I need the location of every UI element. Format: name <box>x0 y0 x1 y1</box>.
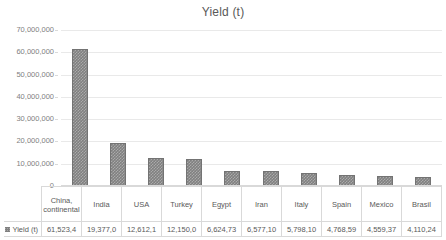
data-table-columns: China, continental61,523,4India19,377,0U… <box>41 186 442 236</box>
y-axis-tick-label: 20,000,000 <box>16 138 54 146</box>
chart-root: Yield (t) 70,000,00060,000,00050,000,000… <box>0 0 446 240</box>
category-label: China, continental <box>42 186 81 221</box>
bar[interactable] <box>72 49 88 186</box>
data-table-column: Spain4,768,59 <box>321 186 361 236</box>
category-label: Mexico <box>362 186 401 221</box>
data-table-column: Italy5,798,10 <box>281 186 321 236</box>
value-cell: 4,768,59 <box>322 221 361 236</box>
value-cell: 5,798,10 <box>282 221 321 236</box>
data-table-column: Mexico4,559,37 <box>361 186 401 236</box>
y-axis-tick-mark <box>55 30 58 31</box>
data-table-bottom-border <box>4 236 442 237</box>
bar-slot <box>175 30 213 186</box>
data-table-column: China, continental61,523,4 <box>41 186 81 236</box>
y-axis-tick-label: 50,000,000 <box>16 71 54 79</box>
legend-swatch-icon <box>5 227 10 232</box>
bar-slot <box>328 30 366 186</box>
data-table-column: Brasil4,110,24 <box>401 186 442 236</box>
y-axis-tick-mark <box>55 97 58 98</box>
bar-slot <box>213 30 251 186</box>
y-axis-tick-label: 40,000,000 <box>16 93 54 101</box>
y-axis-tick-mark <box>55 52 58 53</box>
data-table: Yield (t) China, continental61,523,4Indi… <box>4 186 442 236</box>
value-cell: 12,612,1 <box>122 221 161 236</box>
legend-entry[interactable]: Yield (t) <box>4 221 41 236</box>
bar-slot <box>61 30 99 186</box>
category-label: Brasil <box>402 186 441 221</box>
data-table-column: Egypt6,624,73 <box>201 186 241 236</box>
y-axis-tick-label: 10,000,000 <box>16 160 54 168</box>
value-cell: 4,559,37 <box>362 221 401 236</box>
bar-slot <box>137 30 175 186</box>
data-table-column: Turkey12,150,0 <box>161 186 201 236</box>
bar-slot <box>251 30 289 186</box>
y-axis-tick-mark <box>55 141 58 142</box>
y-axis-tick-mark <box>55 75 58 76</box>
category-label: India <box>82 186 121 221</box>
value-cell: 6,577,10 <box>242 221 281 236</box>
category-label: Italy <box>282 186 321 221</box>
bar[interactable] <box>186 159 202 186</box>
plot-area <box>61 30 442 186</box>
value-cell: 6,624,73 <box>202 221 241 236</box>
bar-slot <box>366 30 404 186</box>
category-label: Egypt <box>202 186 241 221</box>
category-label: USA <box>122 186 161 221</box>
bar-slot <box>404 30 442 186</box>
bar-series <box>61 30 442 186</box>
bar[interactable] <box>224 171 240 186</box>
data-table-column: USA12,612,1 <box>121 186 161 236</box>
bar-slot <box>290 30 328 186</box>
chart-title: Yield (t) <box>0 5 446 19</box>
y-axis-tick-mark <box>55 164 58 165</box>
y-axis-tick-label: 70,000,000 <box>16 26 54 34</box>
y-axis-tick-label: 30,000,000 <box>16 115 54 123</box>
y-axis: 70,000,00060,000,00050,000,00040,000,000… <box>0 30 58 186</box>
y-axis-tick-mark <box>55 119 58 120</box>
category-label: Turkey <box>162 186 201 221</box>
y-axis-tick-label: 60,000,000 <box>16 49 54 57</box>
data-table-column: Iran6,577,10 <box>241 186 281 236</box>
bar-slot <box>99 30 137 186</box>
legend-label: Yield (t) <box>12 225 38 234</box>
data-table-legend-column: Yield (t) <box>4 186 41 236</box>
data-table-column: India19,377,0 <box>81 186 121 236</box>
value-cell: 19,377,0 <box>82 221 121 236</box>
category-label: Iran <box>242 186 281 221</box>
value-cell: 4,110,24 <box>402 221 441 236</box>
value-cell: 12,150,0 <box>162 221 201 236</box>
bar[interactable] <box>263 171 279 186</box>
bar[interactable] <box>110 143 126 186</box>
value-cell: 61,523,4 <box>42 221 81 236</box>
bar[interactable] <box>148 158 164 186</box>
legend-spacer <box>4 186 41 221</box>
category-label: Spain <box>322 186 361 221</box>
